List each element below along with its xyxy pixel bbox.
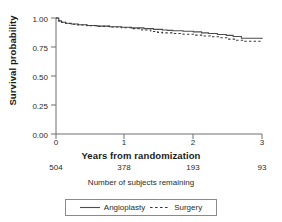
x-tick-label-3: 3	[250, 138, 274, 147]
risk-count-1: 378	[109, 163, 139, 172]
survival-curves	[56, 18, 262, 41]
legend-label-surgery: Surgery	[174, 203, 202, 212]
risk-table-caption: Number of subjects remaining	[0, 178, 282, 187]
y-axis-ticks	[51, 18, 56, 134]
survival-plot-figure: Survival probability 0.00 0.25 0.50 0.75…	[0, 0, 282, 222]
survival-curve-angioplasty	[56, 18, 262, 39]
legend-item-angioplasty: Angioplasty	[80, 203, 145, 212]
x-axis-title: Years from randomization	[0, 150, 282, 161]
chart-legend: Angioplasty Surgery	[65, 199, 217, 216]
legend-item-surgery: Surgery	[150, 203, 202, 212]
risk-count-0: 504	[41, 163, 71, 172]
x-tick-label-2: 2	[181, 138, 205, 147]
plot-area	[0, 0, 282, 150]
legend-label-angioplasty: Angioplasty	[104, 203, 145, 212]
legend-solid-line-icon	[80, 204, 100, 211]
x-tick-label-0: 0	[44, 138, 68, 147]
legend-dashed-line-icon	[150, 204, 170, 211]
x-axis-ticks	[56, 134, 262, 139]
risk-count-3: 93	[247, 163, 277, 172]
x-tick-label-1: 1	[112, 138, 136, 147]
risk-count-2: 193	[178, 163, 208, 172]
